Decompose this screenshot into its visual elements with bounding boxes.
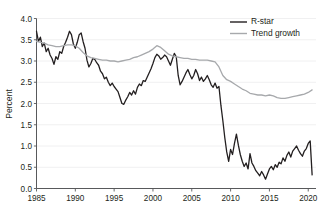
y-axis-title-group: Percent bbox=[4, 89, 14, 119]
gridlines bbox=[37, 19, 317, 168]
line-chart: 0.00.51.01.52.02.53.03.54.0 198519901995… bbox=[0, 0, 334, 214]
y-tick-label: 1.5 bbox=[21, 121, 33, 130]
x-axis: 19851990199520002005201020152020 bbox=[27, 189, 317, 203]
y-tick-label: 3.0 bbox=[21, 57, 33, 66]
x-tick-label: 2015 bbox=[260, 194, 279, 203]
x-tick-label: 1995 bbox=[105, 194, 124, 203]
legend: R-starTrend growth bbox=[230, 16, 300, 38]
x-tick-label: 2000 bbox=[144, 194, 163, 203]
y-tick-label: 1.0 bbox=[21, 142, 33, 151]
x-tick-label: 1985 bbox=[27, 194, 46, 203]
x-tick-label: 2005 bbox=[183, 194, 202, 203]
y-axis-title: Percent bbox=[4, 89, 14, 119]
series-line-trend-growth bbox=[37, 41, 313, 98]
x-tick-label: 2010 bbox=[221, 194, 240, 203]
x-tick-label: 1990 bbox=[66, 194, 85, 203]
data-series bbox=[37, 31, 313, 179]
legend-label-0: R-star bbox=[251, 16, 274, 26]
x-tick-label: 2020 bbox=[299, 194, 318, 203]
series-line-r-star bbox=[37, 31, 313, 179]
legend-label-1: Trend growth bbox=[251, 28, 300, 38]
y-tick-label: 2.0 bbox=[21, 100, 33, 109]
y-tick-label: 4.0 bbox=[21, 15, 33, 24]
y-tick-label: 0.5 bbox=[21, 163, 33, 172]
y-tick-label: 2.5 bbox=[21, 78, 33, 87]
chart-container: 0.00.51.01.52.02.53.03.54.0 198519901995… bbox=[0, 0, 334, 214]
y-tick-label: 3.5 bbox=[21, 36, 33, 45]
y-axis: 0.00.51.01.52.02.53.03.54.0 bbox=[21, 15, 37, 194]
y-tick-label: 0.0 bbox=[21, 185, 33, 194]
